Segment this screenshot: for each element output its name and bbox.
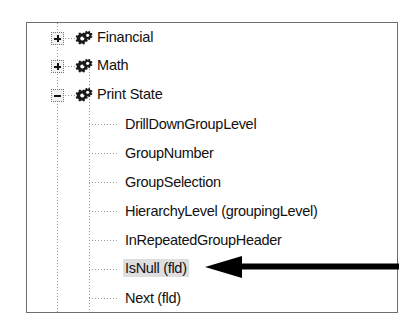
tree-node-math[interactable]: Math xyxy=(27,53,397,80)
tree-leaf-label: DrillDownGroupLevel xyxy=(123,115,258,133)
tree-node-label: Print State xyxy=(97,86,163,102)
tree-leaf-label: GroupSelection xyxy=(123,173,223,191)
tree-node-print-state[interactable]: Print State xyxy=(27,82,397,109)
tree-leaf-label: Next (fld) xyxy=(123,289,183,307)
gear-icon xyxy=(75,86,94,105)
expander-vertical-bar xyxy=(57,35,59,42)
expander-minus-print-state[interactable] xyxy=(51,89,64,102)
tree-connector-stub xyxy=(89,153,119,154)
tree-leaf-drilldowngrouplevel[interactable]: DrillDownGroupLevel xyxy=(27,111,397,138)
tree-leaf-label: InRepeatedGroupHeader xyxy=(123,231,284,249)
tree-connector-stub xyxy=(89,240,119,241)
tree-connector-stub xyxy=(89,182,119,183)
gear-icon xyxy=(75,57,94,76)
tree-node-financial[interactable]: Financial xyxy=(27,25,397,52)
tree-connector-stub xyxy=(89,269,119,270)
gear-icon xyxy=(75,29,94,48)
tree-node-label: Math xyxy=(97,57,128,73)
expander-plus-financial[interactable] xyxy=(51,32,64,45)
function-tree-panel[interactable]: Financial Math xyxy=(26,22,398,313)
tree-leaf-next[interactable]: Next (fld) xyxy=(27,285,397,312)
expander-plus-math[interactable] xyxy=(51,60,64,73)
tree-leaf-inrepeatedgroupheader[interactable]: InRepeatedGroupHeader xyxy=(27,227,397,254)
expander-horizontal-bar xyxy=(54,95,61,97)
tree-leaf-groupnumber[interactable]: GroupNumber xyxy=(27,140,397,167)
tree-connector-stub xyxy=(89,298,119,299)
tree-leaf-label: GroupNumber xyxy=(123,144,216,162)
tree-connector-stub xyxy=(89,124,119,125)
screenshot-canvas: Financial Math xyxy=(0,0,413,326)
expander-vertical-bar xyxy=(57,63,59,70)
tree-connector-stub xyxy=(89,211,119,212)
tree-leaf-groupselection[interactable]: GroupSelection xyxy=(27,169,397,196)
tree-leaf-hierarchylevel[interactable]: HierarchyLevel (groupingLevel) xyxy=(27,198,397,225)
tree-node-label: Financial xyxy=(97,29,153,45)
tree-leaf-label: HierarchyLevel (groupingLevel) xyxy=(123,202,320,220)
tree-leaf-isnull[interactable]: IsNull (fld) xyxy=(27,256,397,283)
tree-leaf-label-selected: IsNull (fld) xyxy=(123,259,189,277)
